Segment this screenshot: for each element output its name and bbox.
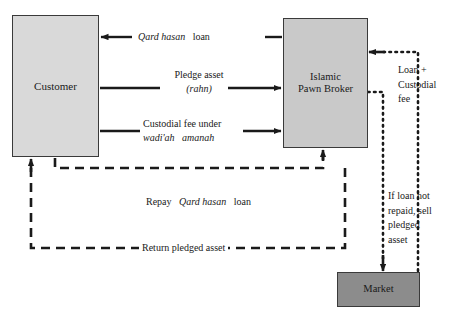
node-broker-label-line1: Islamic (310, 71, 341, 82)
label-custodial-fee: Custodial fee under wadi'ah amanah (143, 117, 235, 144)
node-broker-label: Islamic Pawn Broker (298, 71, 353, 95)
label-if-loan-not-repaid: If loan not repaid, sell pledged asset (388, 189, 436, 247)
label-loan-plus-custodial-fee: Loan + Custodial fee (398, 63, 450, 107)
label-qard-hasan-italic: Qard hasan (138, 31, 185, 42)
node-broker-label-line2: Pawn Broker (298, 83, 353, 94)
node-market[interactable]: Market (337, 272, 420, 307)
label-qard-hasan-loan: Qard hasan loan (138, 30, 210, 44)
label-return-pledged-asset: Return pledged asset (139, 241, 228, 255)
node-customer[interactable]: Customer (12, 15, 99, 157)
label-amanah-italic: amanah (182, 132, 214, 143)
label-repay-qard-hasan-loan: Repay Qard hasan loan (146, 195, 251, 209)
node-customer-label: Customer (34, 80, 77, 93)
label-rahn-italic: (rahn) (186, 83, 212, 94)
connector-sell-pledged-asset (368, 92, 383, 271)
pawn-broking-flow-diagram: Customer Islamic Pawn Broker Market Qard… (0, 0, 454, 323)
label-repay-loan-word: loan (234, 196, 251, 207)
label-repay-word: Repay (146, 196, 172, 207)
label-pledge-asset-line1: Pledge asset (174, 69, 223, 80)
label-repay-qard-hasan-italic: Qard hasan (179, 196, 226, 207)
label-custodial-fee-line1: Custodial fee under (143, 118, 221, 129)
label-qard-hasan-loan-word: loan (193, 31, 210, 42)
node-market-label: Market (363, 283, 393, 295)
node-islamic-pawn-broker[interactable]: Islamic Pawn Broker (283, 18, 368, 148)
label-wadiah-italic: wadi'ah (143, 132, 175, 143)
label-pledge-asset: Pledge asset (rahn) (163, 68, 235, 95)
